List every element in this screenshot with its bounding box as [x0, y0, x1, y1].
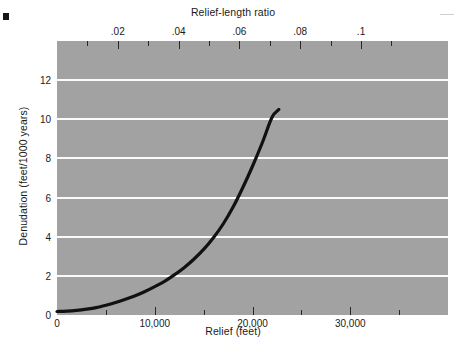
- left-axis-tick-labels: 024681012: [30, 0, 51, 350]
- top-axis-title: Relief-length ratio: [0, 6, 466, 18]
- plot-area: [57, 41, 448, 315]
- tick-label-left-4: 8: [45, 153, 51, 164]
- tick-label-left-6: 12: [40, 75, 51, 86]
- bottom-axis-title: Relief (feet): [0, 325, 466, 337]
- data-curve: [57, 41, 448, 315]
- tick-label-top-1: .04: [172, 26, 186, 37]
- tick-label-left-5: 10: [40, 114, 51, 125]
- tick-label-left-2: 4: [45, 231, 51, 242]
- tick-label-left-1: 2: [45, 270, 51, 281]
- tick-label-top-4: .1: [357, 26, 365, 37]
- tick-label-bottom-3: 30,000: [335, 318, 366, 329]
- denudation-relief-chart-figure: Relief-length ratio Relief (feet) Denuda…: [0, 0, 466, 350]
- tick-label-bottom-1: 10,000: [139, 318, 170, 329]
- tick-label-top-0: .02: [111, 26, 125, 37]
- tick-label-top-3: .08: [293, 26, 307, 37]
- tick-label-bottom-0: 0: [54, 318, 60, 329]
- tick-label-bottom-2: 20,000: [237, 318, 268, 329]
- tick-label-left-3: 6: [45, 192, 51, 203]
- left-axis-title: Denudation (feet/1000 years): [17, 71, 29, 281]
- tick-label-left-0: 0: [45, 310, 51, 321]
- tick-label-top-2: .06: [232, 26, 246, 37]
